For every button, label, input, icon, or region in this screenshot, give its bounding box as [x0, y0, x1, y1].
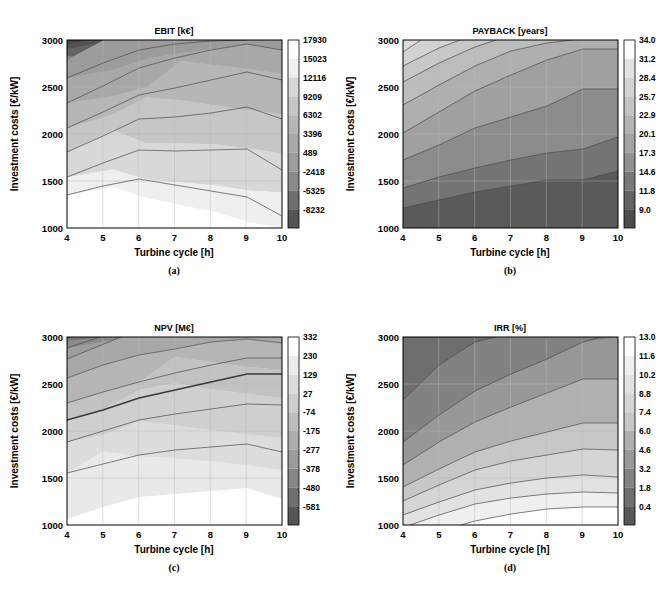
- panel-c-field: [67, 337, 282, 525]
- panel-d-xlabel: Turbine cycle [h]: [470, 544, 549, 555]
- svg-text:6302: 6302: [303, 110, 322, 120]
- svg-text:14.6: 14.6: [639, 167, 656, 177]
- panel-d-title: IRR [%]: [494, 323, 526, 333]
- panel-b-colorbar-ticks: 34.0 31.2 28.4 25.7 22.9 20.1 17.3 14.6 …: [639, 35, 656, 215]
- panel-c-yticks: 3000 2500 2000 1500 1000: [42, 332, 63, 531]
- svg-text:9: 9: [244, 232, 249, 243]
- svg-text:17.3: 17.3: [639, 148, 656, 158]
- svg-text:6: 6: [472, 232, 477, 243]
- svg-text:5: 5: [100, 529, 106, 540]
- svg-text:-480: -480: [303, 483, 320, 493]
- svg-text:27: 27: [303, 389, 313, 399]
- svg-text:3000: 3000: [378, 332, 399, 343]
- panel-a-field: [67, 36, 282, 228]
- svg-text:230: 230: [303, 351, 317, 361]
- svg-text:-378: -378: [303, 464, 320, 474]
- panel-d-field: [403, 337, 618, 525]
- panel-a-xticks: 4 5 6 7 8 9 10: [64, 232, 287, 243]
- panel-c-colorbar: 332 230 129 27 -74 -175 -277 -378 -480 -…: [288, 332, 320, 525]
- svg-text:10: 10: [613, 232, 624, 243]
- svg-text:2500: 2500: [378, 82, 399, 93]
- svg-text:34.0: 34.0: [639, 35, 656, 45]
- svg-text:1.8: 1.8: [639, 483, 651, 493]
- panel-b-caption: (b): [504, 265, 516, 277]
- svg-text:1500: 1500: [378, 473, 399, 484]
- svg-text:7: 7: [508, 529, 513, 540]
- svg-text:8: 8: [208, 232, 213, 243]
- panel-b-xticks: 4 5 6 7 8 9 10: [400, 232, 623, 243]
- panel-c: NPV [M€]: [0, 297, 336, 594]
- svg-text:3000: 3000: [42, 332, 63, 343]
- svg-text:5: 5: [100, 232, 106, 243]
- svg-text:3000: 3000: [42, 35, 63, 46]
- svg-text:-5325: -5325: [303, 186, 325, 196]
- panel-a-ylabel: Investment costs [€/kW]: [9, 77, 20, 191]
- contour-figure: EBIT [k€]: [0, 0, 672, 594]
- svg-text:7: 7: [172, 529, 177, 540]
- panel-c-svg: NPV [M€]: [0, 297, 336, 594]
- panel-c-ylabel: Investment costs [€/kW]: [9, 374, 20, 488]
- svg-text:10.2: 10.2: [639, 370, 656, 380]
- svg-text:5: 5: [436, 529, 442, 540]
- svg-text:6: 6: [136, 232, 141, 243]
- panel-a-colorbar: 17930 15023 12116 9209 6302 3396 489 -24…: [288, 35, 327, 228]
- panel-b-ylabel: Investment costs [€/kW]: [345, 77, 356, 191]
- svg-text:15023: 15023: [303, 54, 327, 64]
- svg-text:10: 10: [277, 529, 288, 540]
- svg-text:11.6: 11.6: [639, 351, 655, 361]
- svg-text:3.2: 3.2: [639, 464, 651, 474]
- panel-d-yticks: 3000 2500 2000 1500 1000: [378, 332, 399, 531]
- panel-c-title: NPV [M€]: [154, 323, 194, 333]
- svg-text:-277: -277: [303, 445, 320, 455]
- svg-text:20.1: 20.1: [639, 129, 656, 139]
- panel-a-caption: (a): [168, 265, 180, 277]
- svg-text:4: 4: [64, 232, 70, 243]
- svg-text:2500: 2500: [42, 82, 63, 93]
- svg-text:6: 6: [472, 529, 477, 540]
- panel-d-caption: (d): [504, 562, 516, 574]
- svg-text:2000: 2000: [42, 129, 63, 140]
- svg-text:4: 4: [400, 529, 406, 540]
- panel-d-svg: IRR [%]: [336, 297, 672, 594]
- svg-text:10: 10: [277, 232, 288, 243]
- panel-b-title: PAYBACK [years]: [472, 26, 547, 36]
- svg-text:8: 8: [208, 529, 213, 540]
- svg-text:9: 9: [244, 529, 249, 540]
- svg-text:3396: 3396: [303, 129, 322, 139]
- panel-c-xticks: 4 5 6 7 8 9 10: [64, 529, 287, 540]
- svg-text:6: 6: [136, 529, 141, 540]
- panel-c-caption: (c): [168, 562, 179, 574]
- svg-text:4.6: 4.6: [639, 445, 651, 455]
- svg-text:3000: 3000: [378, 35, 399, 46]
- svg-text:25.7: 25.7: [639, 92, 656, 102]
- svg-text:13.0: 13.0: [639, 332, 656, 342]
- panel-d: IRR [%]: [336, 297, 672, 594]
- svg-text:332: 332: [303, 332, 317, 342]
- panel-a: EBIT [k€]: [0, 0, 336, 297]
- svg-text:129: 129: [303, 370, 317, 380]
- panel-b-field: [403, 40, 618, 228]
- svg-text:2000: 2000: [378, 426, 399, 437]
- svg-text:8: 8: [544, 529, 549, 540]
- svg-text:1500: 1500: [378, 176, 399, 187]
- panel-b-colorbar: 34.0 31.2 28.4 25.7 22.9 20.1 17.3 14.6 …: [624, 35, 656, 228]
- svg-text:-175: -175: [303, 426, 320, 436]
- svg-text:-74: -74: [303, 407, 316, 417]
- svg-text:1000: 1000: [378, 520, 399, 531]
- svg-text:489: 489: [303, 148, 317, 158]
- panel-a-title: EBIT [k€]: [154, 26, 193, 36]
- svg-text:31.2: 31.2: [639, 54, 656, 64]
- svg-text:1000: 1000: [42, 223, 63, 234]
- panel-a-yticks: 3000 2500 2000 1500 1000: [42, 35, 63, 234]
- svg-text:2500: 2500: [42, 379, 63, 390]
- svg-text:9209: 9209: [303, 92, 322, 102]
- svg-text:1000: 1000: [42, 520, 63, 531]
- svg-text:1500: 1500: [42, 473, 63, 484]
- svg-text:17930: 17930: [303, 35, 327, 45]
- svg-text:1500: 1500: [42, 176, 63, 187]
- panel-d-colorbar-ticks: 13.0 11.6 10.2 8.8 7.4 6.0 4.6 3.2 1.8 0…: [639, 332, 656, 512]
- panel-b-yticks: 3000 2500 2000 1500 1000: [378, 35, 399, 234]
- svg-text:6.0: 6.0: [639, 426, 651, 436]
- panel-d-ylabel: Investment costs [€/kW]: [345, 374, 356, 488]
- svg-text:7.4: 7.4: [639, 407, 651, 417]
